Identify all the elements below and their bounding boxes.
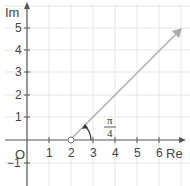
y-tick-label: 4 [15,43,22,57]
diagram-svg: Im Re O 1 2 3 4 5 6 5 4 3 2 1 −1 π 4 [0,0,190,186]
x-tick-label: 2 [68,146,75,160]
y-tick-label: 5 [15,21,22,35]
y-tick-label: −1 [7,156,21,170]
x-tick-label: 6 [156,146,163,160]
y-tick-label: 2 [15,88,22,102]
x-axis-arrow-icon [179,137,186,143]
x-tick-label: 1 [46,146,53,160]
y-tick-label: 1 [15,110,22,124]
angle-numerator: π [107,114,113,126]
x-tick-label: 5 [134,146,141,160]
angle-denominator: 4 [107,127,113,139]
y-tick-label: 3 [15,65,22,79]
y-axis-label: Im [5,5,19,20]
half-line-ray [73,32,178,137]
x-axis-label: Re [166,146,183,161]
x-tick-label: 3 [90,146,97,160]
x-tick-label: 4 [112,146,119,160]
complex-plane-diagram: Im Re O 1 2 3 4 5 6 5 4 3 2 1 −1 π 4 [0,0,190,186]
open-circle-start-point [68,137,74,143]
